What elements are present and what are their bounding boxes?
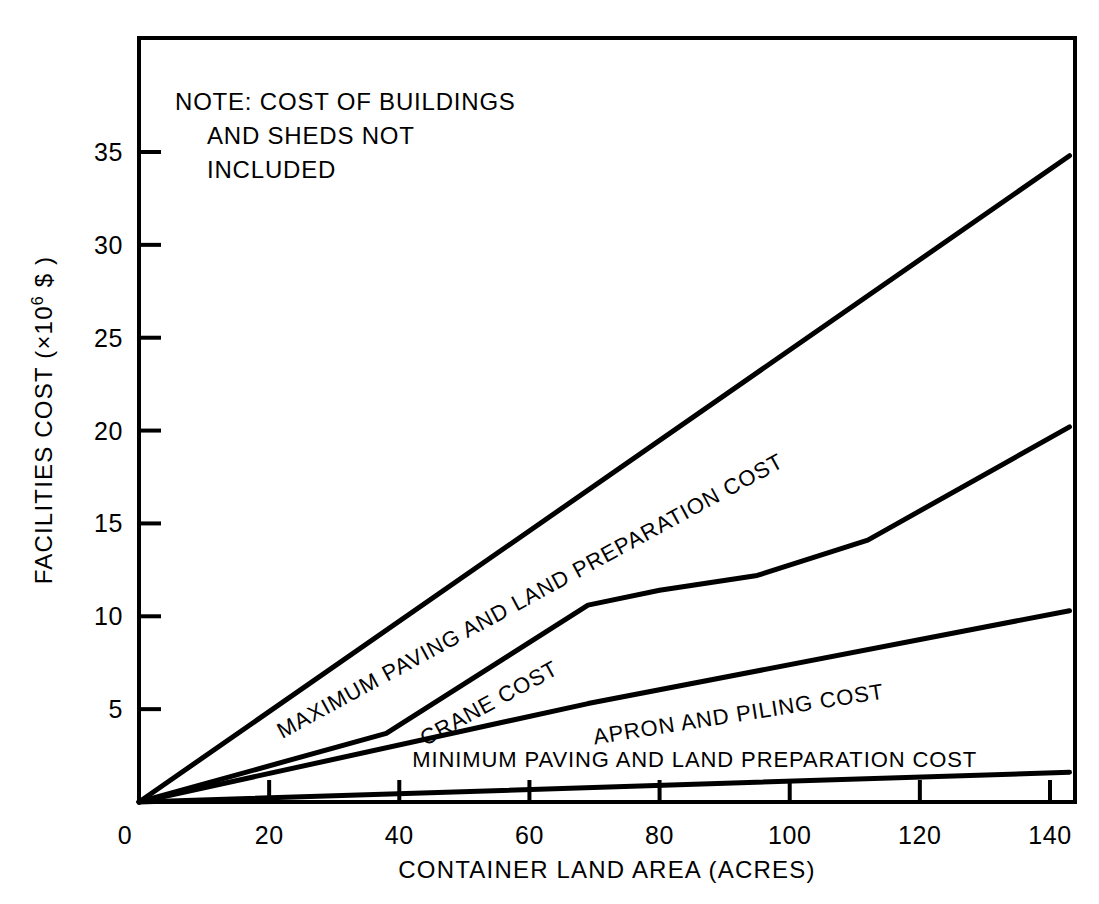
y-tick-label-15: 15 (94, 509, 123, 537)
x-tick-label-120: 120 (898, 821, 942, 849)
y-tick-label-35: 35 (94, 138, 123, 166)
note-line-2: INCLUDED (207, 156, 336, 183)
y-axis-ticks (139, 152, 161, 709)
x-tick-label-60: 60 (515, 821, 544, 849)
y-tick-label-5: 5 (108, 695, 123, 723)
y-tick-label-30: 30 (94, 231, 123, 259)
x-tick-label-80: 80 (645, 821, 674, 849)
x-tick-label-100: 100 (768, 821, 812, 849)
plot-frame (139, 38, 1075, 802)
y-axis-title: FACILITIES COST (×106 $ ) (29, 256, 57, 585)
note-line-0: NOTE: COST OF BUILDINGS (175, 88, 516, 115)
x-tick-label-140: 140 (1028, 821, 1072, 849)
series-line-0 (139, 156, 1070, 802)
y-tick-label-20: 20 (94, 417, 123, 445)
series-label-0: MAXIMUM PAVING AND LAND PREPARATION COST (273, 448, 788, 743)
x-axis-title: CONTAINER LAND AREA (ACRES) (398, 856, 815, 883)
series-label-2: APRON AND PILING COST (591, 679, 885, 750)
y-axis-title-pre: FACILITIES COST (×10 (30, 305, 57, 584)
y-tick-label-25: 25 (94, 324, 123, 352)
series-inline-labels: MAXIMUM PAVING AND LAND PREPARATION COST… (273, 448, 978, 771)
series-line-3 (139, 772, 1070, 802)
y-tick-label-0: 0 (118, 821, 133, 849)
series-lines (139, 156, 1070, 802)
note-line-1: AND SHEDS NOT (207, 122, 415, 149)
x-axis-tick-labels: 20406080100120140 (255, 821, 1072, 849)
y-tick-label-10: 10 (94, 602, 123, 630)
y-axis-tick-labels: 51015202530350 (94, 138, 132, 849)
series-label-3: MINIMUM PAVING AND LAND PREPARATION COST (412, 747, 977, 772)
x-tick-label-20: 20 (255, 821, 284, 849)
y-axis-title-exponent: 6 (29, 295, 46, 305)
chart-note: NOTE: COST OF BUILDINGSAND SHEDS NOTINCL… (175, 88, 516, 183)
svg-text:FACILITIES COST (×106 $ ): FACILITIES COST (×106 $ ) (29, 256, 57, 585)
chart-canvas: 51015202530350 20406080100120140 MAXIMUM… (0, 0, 1099, 904)
x-tick-label-40: 40 (385, 821, 414, 849)
y-axis-title-post: $ ) (30, 256, 57, 295)
chart-figure: 51015202530350 20406080100120140 MAXIMUM… (0, 0, 1099, 904)
